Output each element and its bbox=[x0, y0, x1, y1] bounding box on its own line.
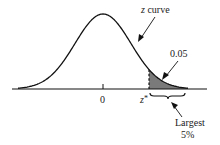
curve-label: z curve bbox=[140, 4, 170, 15]
z-curve bbox=[18, 14, 188, 88]
tick-label-zero: 0 bbox=[100, 94, 105, 105]
largest-arrowhead-icon bbox=[171, 102, 178, 109]
tail-brace bbox=[150, 93, 185, 99]
largest-label-line2: 5% bbox=[181, 129, 194, 140]
area-label: 0.05 bbox=[170, 48, 188, 59]
area-label-arrow bbox=[166, 61, 178, 76]
curve-label-arrow bbox=[141, 17, 155, 38]
normal-curve-chart: 0 z* z curve 0.05 Largest 5% bbox=[0, 0, 220, 145]
largest-label-line1: Largest bbox=[175, 117, 205, 128]
tick-label-zstar: z* bbox=[139, 94, 148, 105]
